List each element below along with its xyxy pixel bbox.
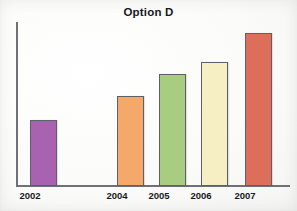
x-tick-label-1: 2004	[95, 190, 139, 201]
bar-2007	[245, 33, 272, 186]
x-tick-label-2: 2005	[137, 190, 181, 201]
x-tick-label-0: 2002	[8, 190, 52, 201]
x-tick-label-3: 2006	[179, 190, 223, 201]
plot-area	[16, 22, 290, 186]
bar-2006	[201, 62, 228, 186]
chart-canvas: Option D 2002 2004 2005 2006 2007	[0, 0, 297, 211]
bar-2005	[159, 74, 186, 186]
bar-2002	[30, 120, 57, 186]
bar-2004	[117, 96, 144, 186]
chart-title: Option D	[0, 6, 297, 18]
x-tick-label-4: 2007	[223, 190, 267, 201]
